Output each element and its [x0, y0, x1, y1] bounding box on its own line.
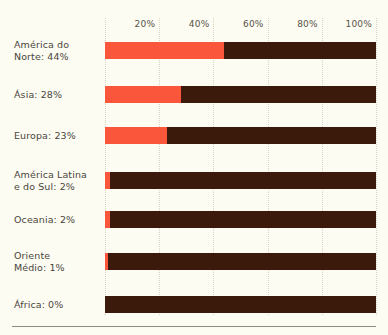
bar-remainder-segment [105, 211, 376, 228]
bar-row: Ásia: 28% [0, 86, 388, 103]
bar-value-segment [105, 86, 181, 103]
horizontal-bar-chart: 20%40%60%80%100% América do Norte: 44%Ás… [0, 0, 388, 335]
bottom-rule [12, 326, 376, 327]
bar-row: África: 0% [0, 296, 388, 313]
bar-row: América Latina e do Sul: 2% [0, 172, 388, 189]
bar-value-segment [105, 42, 224, 59]
bar-row: Europa: 23% [0, 127, 388, 144]
bar-remainder-segment [105, 172, 376, 189]
chart-bars: América do Norte: 44%Ásia: 28%Europa: 23… [0, 0, 388, 335]
bar-category-label: Ásia: 28% [14, 89, 102, 101]
bar-value-segment [105, 127, 167, 144]
bar-remainder-segment [105, 127, 376, 144]
bar-value-segment [105, 211, 110, 228]
bar-category-label: Oceania: 2% [14, 214, 102, 226]
bar-value-segment [105, 253, 108, 270]
bar-remainder-segment [105, 253, 376, 270]
bar-remainder-segment [105, 86, 376, 103]
bar-category-label: Oriente Médio: 1% [14, 250, 102, 273]
bar-row: Oriente Médio: 1% [0, 253, 388, 270]
bar-category-label: América do Norte: 44% [14, 39, 102, 62]
bar-category-label: América Latina e do Sul: 2% [14, 169, 102, 192]
bar-row: Oceania: 2% [0, 211, 388, 228]
bar-category-label: África: 0% [14, 299, 102, 311]
bar-value-segment [105, 172, 110, 189]
bar-row: América do Norte: 44% [0, 42, 388, 59]
bar-remainder-segment [105, 296, 376, 313]
bar-category-label: Europa: 23% [14, 130, 102, 142]
bar-remainder-segment [105, 42, 376, 59]
